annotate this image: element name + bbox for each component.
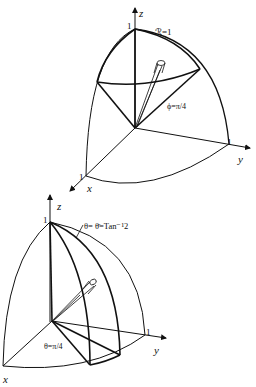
top-y-tick: 1 [227, 137, 232, 147]
top-sphere-arc-xy [86, 144, 229, 183]
top-figure-labels: z 1 ℛ=1 ϕ=π/4 1 y 1 x [79, 7, 243, 194]
top-cone-edge-right [135, 69, 200, 128]
bottom-plane-thetabar-meridian [50, 222, 120, 355]
diagram-canvas: z 1 ℛ=1 ϕ=π/4 1 y 1 x [0, 0, 256, 387]
bottom-thetabar-label: θ= θ̄=Tan⁻¹2 [84, 221, 128, 231]
bottom-x-label: x [2, 373, 8, 385]
bottom-y-label: y [153, 344, 159, 356]
top-z-label: z [138, 7, 144, 19]
top-radius-label: ℛ=1 [155, 27, 172, 37]
top-cone-rim-arc-left [97, 29, 135, 82]
bottom-figure-labels: z 1 θ= θ̄=Tan⁻¹2 θ=π/4 1 y x [2, 200, 159, 385]
top-sphere-arc-zx [86, 29, 135, 176]
bottom-sphere-arc-zy [50, 222, 145, 335]
top-y-label: y [237, 153, 243, 165]
bottom-z-label: z [56, 200, 62, 212]
top-cone-rim [97, 69, 200, 84]
top-x-label: x [86, 182, 92, 194]
top-cone-edge-left [97, 82, 135, 128]
bottom-y-tick: 1 [146, 327, 151, 337]
top-z-tick: 1 [127, 21, 132, 31]
top-x-tick: 1 [79, 172, 84, 182]
bottom-pi4-label: θ=π/4 [44, 342, 63, 351]
bottom-z-tick: 1 [43, 215, 48, 225]
bottom-sphere-arc-xy [3, 335, 145, 368]
top-tube-element [135, 61, 165, 129]
top-sphere-arc-zy [135, 29, 229, 144]
bottom-tube-element [52, 278, 97, 321]
top-cone-label: ϕ=π/4 [167, 102, 186, 111]
top-y-axis [135, 128, 250, 148]
